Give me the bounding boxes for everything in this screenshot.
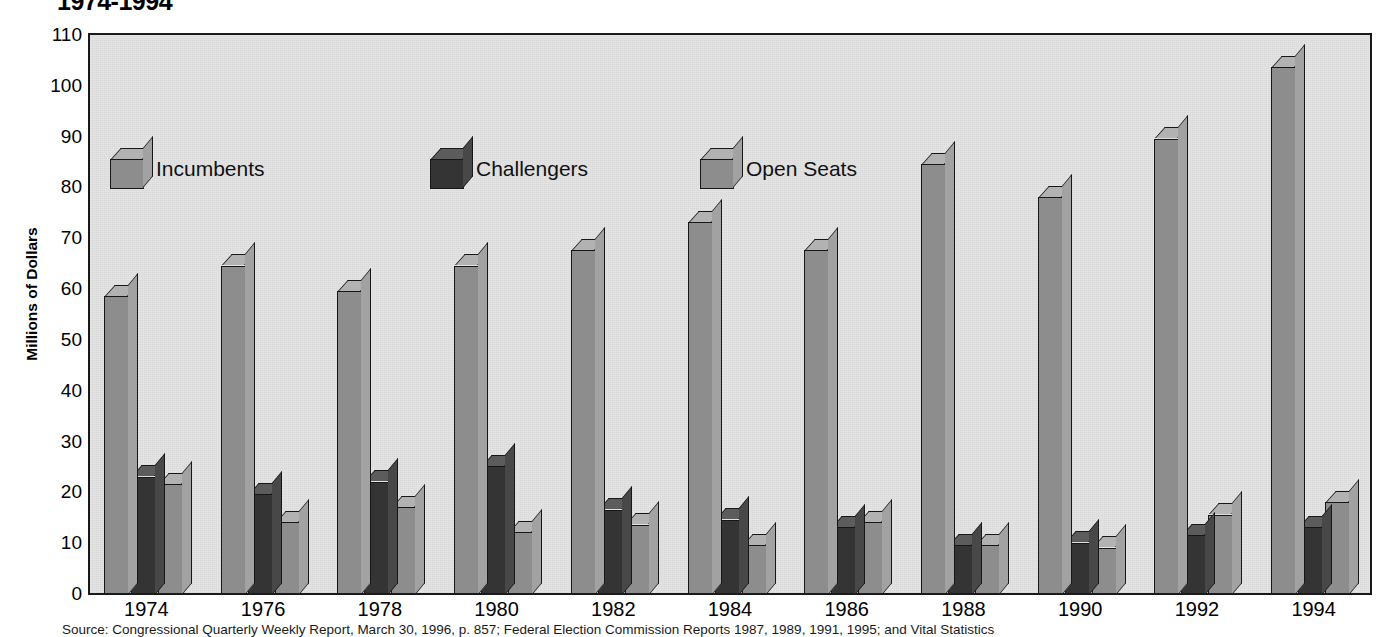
bar-side-face <box>1089 519 1099 595</box>
bar-side-face <box>1062 174 1072 595</box>
bar-side-face <box>945 141 955 595</box>
bar-side-face <box>272 471 282 595</box>
chart-figure: 1974-1994 Millions of Dollars 0102030405… <box>0 0 1377 637</box>
bar-side-face <box>712 199 722 595</box>
y-axis-tick-10: 10 <box>32 532 82 554</box>
y-axis-tick-40: 40 <box>32 380 82 402</box>
bar-side-face <box>155 453 165 595</box>
bar-side-face <box>882 499 892 595</box>
source-note: Source: Congressional Quarterly Weekly R… <box>62 622 994 637</box>
bar-side-face <box>999 522 1009 595</box>
bar-incumbents-1988 <box>921 164 946 595</box>
x-axis-tick-1994: 1994 <box>1244 598 1377 621</box>
bar-incumbents-1976 <box>221 266 246 595</box>
bar-incumbents-1992 <box>1154 139 1179 595</box>
y-axis-tick-60: 60 <box>32 278 82 300</box>
bar-side-face <box>1205 512 1215 595</box>
bar-side-face <box>1322 504 1332 595</box>
legend-label-open_seats: Open Seats <box>746 157 857 181</box>
legend-item-challengers[interactable]: Challengers <box>430 145 588 193</box>
y-axis-tick-110: 110 <box>32 24 82 46</box>
bar-side-face <box>1349 479 1359 595</box>
bar-incumbents-1990 <box>1038 197 1063 595</box>
y-axis-tick-0: 0 <box>32 583 82 605</box>
bar-side-face <box>1116 524 1126 595</box>
bar-incumbents-1982 <box>571 250 596 595</box>
bar-side-face <box>972 522 982 595</box>
bar-side-face <box>1232 491 1242 595</box>
swatch-side-face <box>733 136 743 188</box>
bar-side-face <box>828 227 838 595</box>
bar-side-face <box>182 461 192 595</box>
cube-swatch-icon <box>430 159 464 189</box>
y-axis-tick-90: 90 <box>32 126 82 148</box>
y-axis-tick-80: 80 <box>32 176 82 198</box>
legend-item-open_seats[interactable]: Open Seats <box>700 145 857 193</box>
bar-side-face <box>739 496 749 595</box>
legend-label-incumbents: Incumbents <box>156 157 265 181</box>
bar-side-face <box>128 273 138 595</box>
bar-incumbents-1994 <box>1271 67 1296 595</box>
bar-incumbents-1980 <box>454 266 479 595</box>
bar-incumbents-1978 <box>337 291 362 595</box>
bar-incumbents-1974 <box>104 296 129 595</box>
bar-side-face <box>415 484 425 595</box>
swatch-side-face <box>463 136 473 188</box>
y-axis-tick-50: 50 <box>32 329 82 351</box>
y-axis-tick-30: 30 <box>32 431 82 453</box>
bar-side-face <box>532 509 542 595</box>
bar-side-face <box>299 499 309 595</box>
bar-side-face <box>595 227 605 595</box>
legend-item-incumbents[interactable]: Incumbents <box>110 145 265 193</box>
bar-incumbents-1986 <box>804 250 829 595</box>
cube-swatch-icon <box>110 159 144 189</box>
bar-side-face <box>855 504 865 595</box>
bar-incumbents-1984 <box>688 222 713 595</box>
y-axis-tick-70: 70 <box>32 227 82 249</box>
bar-side-face <box>1178 115 1188 595</box>
legend-label-challengers: Challengers <box>476 157 588 181</box>
y-axis-tick-20: 20 <box>32 481 82 503</box>
y-axis-tick-100: 100 <box>32 75 82 97</box>
plot-area: IncumbentsChallengersOpen Seats <box>88 33 1372 595</box>
bar-side-face <box>1295 44 1305 595</box>
bar-side-face <box>245 242 255 595</box>
cube-swatch-icon <box>700 159 734 189</box>
swatch-side-face <box>143 136 153 188</box>
bar-side-face <box>388 458 398 595</box>
bar-side-face <box>649 502 659 595</box>
page-title: 1974-1994 <box>57 0 172 16</box>
bar-side-face <box>622 486 632 595</box>
bar-side-face <box>505 443 515 595</box>
bar-side-face <box>766 522 776 595</box>
bar-side-face <box>361 268 371 595</box>
bar-side-face <box>478 242 488 595</box>
